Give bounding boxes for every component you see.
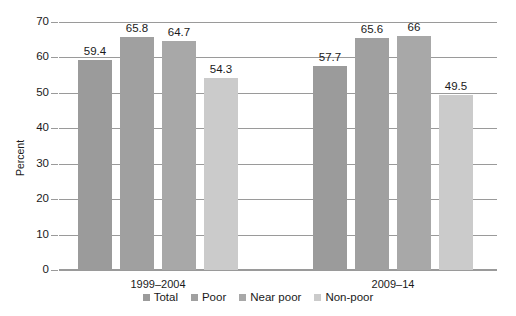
y-tick-mark (51, 235, 58, 236)
legend-swatch-icon (143, 294, 150, 301)
chart-legend: TotalPoorNear poorNon-poor (0, 292, 516, 304)
y-tick-mark (51, 57, 58, 58)
y-tick-mark (51, 270, 58, 271)
y-tick-label: 40 (3, 123, 49, 135)
y-tick-label: 30 (3, 158, 49, 170)
bar (204, 78, 238, 270)
bar-chart: Percent 010203040506070 59.465.864.754.3… (0, 0, 516, 316)
bar (397, 36, 431, 270)
y-tick-label: 20 (3, 193, 49, 205)
y-tick-mark (51, 22, 58, 23)
y-tick-mark (51, 128, 58, 129)
legend-label: Poor (202, 292, 226, 304)
legend-label: Near poor (250, 292, 301, 304)
bar-value-label: 64.7 (154, 27, 204, 39)
legend-swatch-icon (191, 294, 198, 301)
y-tick-mark (51, 93, 58, 94)
legend-swatch-icon (239, 294, 246, 301)
legend-item[interactable]: Poor (191, 292, 226, 304)
bar-value-label: 59.4 (70, 46, 120, 58)
x-axis-category-label: 2009–14 (293, 278, 493, 290)
bar (120, 37, 154, 270)
y-tick-mark (51, 199, 58, 200)
bar (78, 60, 112, 270)
legend-label: Non-poor (325, 292, 373, 304)
y-tick-label: 10 (3, 229, 49, 241)
y-tick-mark (51, 164, 58, 165)
plot-area (59, 22, 497, 270)
y-tick-label: 0 (3, 264, 49, 276)
bar (439, 95, 473, 270)
legend-label: Total (154, 292, 178, 304)
bar-value-label: 57.7 (305, 52, 355, 64)
bar-value-label: 49.5 (431, 81, 481, 93)
bar (355, 38, 389, 270)
bar-value-label: 54.3 (196, 64, 246, 76)
x-axis-category-label: 1999–2004 (58, 278, 258, 290)
legend-swatch-icon (314, 294, 321, 301)
y-tick-label: 70 (3, 16, 49, 28)
bar (313, 66, 347, 270)
legend-item[interactable]: Total (143, 292, 178, 304)
bar-value-label: 66 (389, 22, 439, 34)
bar (162, 41, 196, 270)
y-tick-label: 50 (3, 87, 49, 99)
legend-item[interactable]: Non-poor (314, 292, 373, 304)
legend-item[interactable]: Near poor (239, 292, 301, 304)
y-tick-label: 60 (3, 52, 49, 64)
